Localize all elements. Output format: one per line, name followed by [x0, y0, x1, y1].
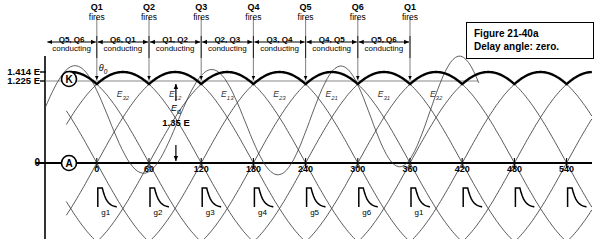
caption-line-2: Delay angle: zero. — [474, 40, 586, 53]
gate-label-g6: g6 — [362, 209, 371, 217]
firing-word: fires — [245, 13, 261, 22]
firing-word: fires — [89, 13, 105, 22]
voltage-label-E21: E21 — [326, 90, 338, 101]
firing-device-name: Q4 — [247, 2, 259, 12]
node-a-marker: A — [62, 156, 77, 171]
gate-label-g3: g3 — [206, 209, 215, 217]
firing-word: fires — [298, 13, 314, 22]
x-tick-label-360: 360 — [402, 165, 417, 174]
firing-label-q2-1: Q2fires — [141, 3, 157, 22]
svg-text:A: A — [65, 158, 72, 169]
conducting-label-3: Q2, Q3conducting — [208, 36, 247, 54]
conducting-pair: Q2, Q3 — [214, 35, 240, 44]
ed-label: Ed — [171, 104, 181, 115]
firing-label-q1-0: Q1fires — [89, 3, 105, 22]
caption-line-1: Figure 21-40a — [474, 27, 586, 40]
voltage-label-E12: E12 — [169, 90, 181, 101]
x-tick-label-0: 0 — [94, 165, 99, 174]
theta-zero-label: θ0 — [99, 64, 108, 76]
gate-label-g1: g1 — [415, 209, 424, 217]
conducting-label-5: Q4, Q5conducting — [312, 36, 351, 54]
firing-device-name: Q2 — [143, 2, 155, 12]
conducting-pair: Q4, Q5 — [319, 35, 345, 44]
x-tick-label-60: 60 — [144, 165, 154, 174]
gate-pulse-3 — [254, 188, 273, 207]
conducting-pair: Q6, Q1 — [110, 35, 136, 44]
firing-label-q1-6: Q1fires — [402, 3, 418, 22]
firing-device-name: Q1 — [404, 2, 416, 12]
x-tick-label-180: 180 — [246, 165, 261, 174]
firing-device-name: Q1 — [91, 2, 103, 12]
conducting-word: conducting — [156, 45, 195, 53]
firing-word: fires — [141, 13, 157, 22]
voltage-label-E32: E32 — [117, 90, 129, 101]
conducting-pair: Q3, Q4 — [267, 35, 293, 44]
conducting-word: conducting — [52, 45, 91, 53]
gate-pulse-0 — [98, 188, 117, 207]
voltage-label-E31: E31 — [378, 90, 390, 101]
x-tick-label-300: 300 — [350, 165, 365, 174]
firing-word: fires — [350, 13, 366, 22]
conducting-word: conducting — [365, 45, 404, 53]
node-k-marker: K — [62, 72, 77, 87]
conducting-word: conducting — [208, 45, 247, 53]
x-tick-label-420: 420 — [455, 165, 470, 174]
firing-label-q3-2: Q3fires — [193, 3, 209, 22]
conducting-word: conducting — [104, 45, 143, 53]
voltage-label-E23: E23 — [273, 90, 285, 101]
gate-label-g1: g1 — [101, 209, 110, 217]
x-tick-label-240: 240 — [298, 165, 313, 174]
figure-21-40a: K A Q1firesQ2firesQ3firesQ4firesQ5firesQ… — [0, 0, 595, 239]
conducting-label-1: Q6, Q1conducting — [104, 36, 143, 54]
conducting-label-4: Q3, Q4conducting — [260, 36, 299, 54]
x-tick-label-120: 120 — [194, 165, 209, 174]
figure-caption-box: Figure 21-40a Delay angle: zero. — [466, 22, 594, 59]
voltage-label-E32: E32 — [430, 90, 442, 101]
gate-pulse-6 — [411, 188, 430, 207]
conducting-pair: Q5, Q6 — [371, 35, 397, 44]
gate-pulse-4 — [307, 188, 326, 207]
firing-device-name: Q6 — [352, 2, 364, 12]
firing-device-name: Q5 — [300, 2, 312, 12]
gate-label-g5: g5 — [310, 209, 319, 217]
conducting-pair: Q5, Q6 — [59, 35, 85, 44]
y-label-zero: 0 — [34, 158, 40, 169]
gate-pulse-7 — [463, 188, 482, 207]
conducting-word: conducting — [260, 45, 299, 53]
gate-label-g2: g2 — [154, 209, 163, 217]
firing-device-name: Q3 — [195, 2, 207, 12]
gate-pulse-1 — [150, 188, 169, 207]
gate-pulse-2 — [202, 188, 221, 207]
firing-word: fires — [193, 13, 209, 22]
conducting-pair: Q1, Q2 — [162, 35, 188, 44]
y-axis — [40, 56, 46, 239]
x-tick-label-480: 480 — [507, 165, 522, 174]
gate-label-g4: g4 — [258, 209, 267, 217]
firing-label-q6-5: Q6fires — [350, 3, 366, 22]
conducting-label-0: Q5, Q6conducting — [52, 36, 91, 54]
y-label-1225: 1.225 E — [0, 76, 40, 86]
voltage-label-E13: E13 — [221, 90, 233, 101]
firing-label-q5-4: Q5fires — [298, 3, 314, 22]
conducting-label-2: Q1, Q2conducting — [156, 36, 195, 54]
firing-word: fires — [402, 13, 418, 22]
conducting-word: conducting — [312, 45, 351, 53]
gate-pulse-9 — [568, 188, 587, 207]
ed-value-label: 1.35 E — [162, 118, 189, 128]
svg-text:K: K — [65, 74, 73, 85]
firing-label-q4-3: Q4fires — [245, 3, 261, 22]
gate-pulse-5 — [359, 188, 378, 207]
conducting-label-6: Q5, Q6conducting — [365, 36, 404, 54]
envelope-path — [66, 72, 592, 84]
gate-pulse-8 — [515, 188, 534, 207]
x-tick-label-540: 540 — [559, 165, 574, 174]
conducting-separators — [97, 36, 410, 58]
rectified-envelope-curve — [66, 72, 592, 84]
